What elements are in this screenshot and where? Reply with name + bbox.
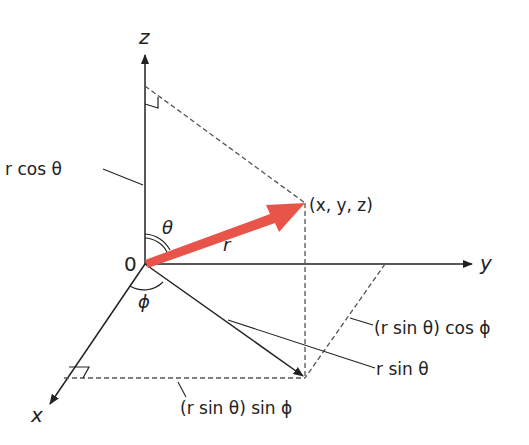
right-angle-marker-z (145, 97, 158, 108)
xy-projection-vector (145, 264, 303, 376)
r-sin-theta-label: r sin θ (376, 359, 429, 379)
y-component-label: (r sin θ) cos ϕ (374, 318, 490, 338)
origin-label: 0 (124, 252, 137, 276)
y-axis: y (145, 251, 493, 275)
x-axis: x (30, 264, 145, 427)
spherical-coordinates-diagram: z y x 0 θ ϕ r (x, y, z) r c (0, 0, 529, 445)
r-cos-theta-label: r cos θ (5, 159, 62, 179)
x-axis-label: x (30, 403, 43, 427)
z-axis-label: z (138, 25, 150, 49)
y-axis-label: y (479, 251, 493, 275)
x-component-label: (r sin θ) sin ϕ (180, 398, 292, 418)
phi-arc (130, 282, 163, 290)
z-axis: z (138, 25, 150, 264)
theta-label: θ (162, 217, 173, 238)
point-label: (x, y, z) (309, 195, 373, 215)
phi-label: ϕ (138, 291, 150, 312)
